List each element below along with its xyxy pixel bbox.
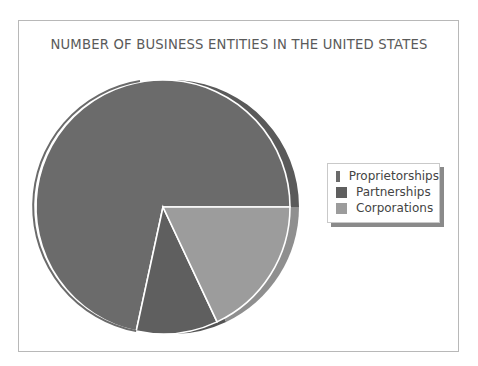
legend-swatch-corporations: [336, 203, 347, 214]
pie-front-layer: [33, 80, 290, 334]
chart-legend: Proprietorships Partnerships Corporation…: [327, 163, 440, 223]
legend-label: Corporations: [356, 201, 433, 215]
legend-label: Proprietorships: [349, 169, 439, 183]
legend-swatch-partnerships: [336, 187, 347, 198]
legend-swatch-proprietorships: [336, 171, 340, 182]
legend-item-proprietorships: Proprietorships: [336, 168, 439, 184]
legend-item-partnerships: Partnerships: [336, 184, 439, 200]
legend-item-corporations: Corporations: [336, 200, 439, 216]
legend-label: Partnerships: [356, 185, 431, 199]
